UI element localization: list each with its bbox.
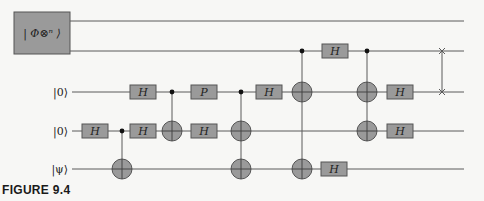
- p-gate: P: [191, 85, 217, 99]
- wire-label-3: |0⟩: [53, 125, 68, 139]
- control-dot: [239, 90, 244, 95]
- h-gate: H: [387, 124, 413, 138]
- svg-text:H: H: [329, 45, 340, 58]
- entangled-state-box: | Φ⊗ⁿ ⟩: [14, 12, 70, 54]
- svg-text:H: H: [137, 86, 148, 99]
- cnot-target-icon: [292, 82, 312, 102]
- control-dot: [170, 90, 175, 95]
- h-gate: H: [321, 162, 347, 176]
- cnot-target-icon: [357, 82, 377, 102]
- swap-gate: [439, 48, 445, 95]
- control-dot: [365, 49, 370, 54]
- cnot-target-icon: [231, 159, 251, 179]
- svg-text:H: H: [263, 86, 274, 99]
- svg-text:H: H: [89, 125, 100, 138]
- cnot-target-icon: [162, 121, 182, 141]
- figure-caption: FIGURE 9.4: [2, 183, 70, 197]
- h-gate: H: [82, 124, 108, 138]
- cnot-target-icon: [231, 121, 251, 141]
- h-gate: H: [387, 85, 413, 99]
- svg-text:H: H: [328, 163, 339, 176]
- cnot-target-icon: [292, 159, 312, 179]
- quantum-circuit: | Φ⊗ⁿ ⟩ |0⟩ |0⟩ |ψ⟩ H H H: [0, 0, 484, 201]
- h-gate: H: [130, 85, 156, 99]
- svg-text:H: H: [394, 86, 405, 99]
- state-box-label: | Φ⊗ⁿ ⟩: [23, 27, 61, 41]
- wire-label-2: |0⟩: [53, 86, 68, 100]
- h-gate: H: [130, 124, 156, 138]
- control-dot: [120, 129, 125, 134]
- h-gate: H: [191, 124, 217, 138]
- cnot-target-icon: [357, 121, 377, 141]
- cnot-target-icon: [112, 159, 132, 179]
- h-gate: H: [256, 85, 282, 99]
- svg-text:P: P: [199, 86, 208, 99]
- h-gate: H: [322, 44, 348, 58]
- wire-label-4: |ψ⟩: [51, 163, 68, 177]
- svg-text:H: H: [394, 125, 405, 138]
- svg-text:H: H: [137, 125, 148, 138]
- svg-text:H: H: [198, 125, 209, 138]
- control-dot: [300, 49, 305, 54]
